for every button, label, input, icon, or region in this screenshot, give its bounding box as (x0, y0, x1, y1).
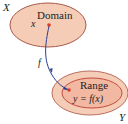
range-point (67, 88, 71, 92)
domain-set-label: X (2, 1, 11, 13)
function-label: f (38, 57, 42, 68)
element-label: x (30, 18, 36, 29)
function-diagram: X Domain x f Range y = f(x) Y (0, 0, 128, 124)
range-label: Range (80, 79, 108, 91)
domain-point (47, 23, 51, 27)
image-label: y = f(x) (72, 93, 104, 105)
codomain-set-label: Y (119, 111, 127, 123)
domain-label: Domain (37, 9, 73, 21)
